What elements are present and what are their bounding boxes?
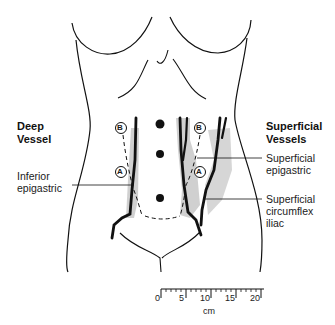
scale-tick-0: 0 — [155, 293, 160, 303]
left-torso-outline — [67, 40, 90, 272]
midline-dot — [156, 150, 164, 158]
left-rib-line — [118, 60, 148, 98]
lower-dashed-line — [145, 216, 180, 219]
scale-tick-15: 15 — [225, 293, 235, 303]
right-breast-outline — [170, 17, 251, 53]
scale-unit: cm — [203, 306, 215, 316]
right-groin-line — [162, 232, 200, 258]
marker-b-left: B — [117, 122, 123, 134]
superficial-epigastric-label: Superficial epigastric — [266, 152, 315, 176]
right-rib-line — [173, 59, 206, 99]
scale-tick-10: 10 — [200, 293, 210, 303]
scale-bar — [161, 289, 264, 298]
marker-a-left: A — [117, 166, 123, 178]
left-groin-line — [120, 233, 161, 272]
umbilical-dot-top — [156, 120, 165, 129]
xiphoid — [157, 50, 168, 63]
lower-dot — [156, 194, 164, 202]
superficial-vessels-heading: Superficial Vessels — [266, 120, 322, 146]
left-breast-outline — [72, 17, 152, 54]
superficial-circumflex-iliac-label: Superficial circumflex iliac — [266, 193, 315, 229]
marker-a-right: A — [196, 166, 202, 178]
scale-tick-20: 20 — [250, 293, 260, 303]
right-torso-outline — [235, 38, 262, 272]
deep-vessel-heading: Deep Vessel — [17, 120, 51, 146]
inferior-epigastric-label: Inferior epigastric — [17, 170, 62, 194]
marker-b-right: B — [196, 122, 202, 134]
scale-tick-5: 5 — [179, 293, 184, 303]
